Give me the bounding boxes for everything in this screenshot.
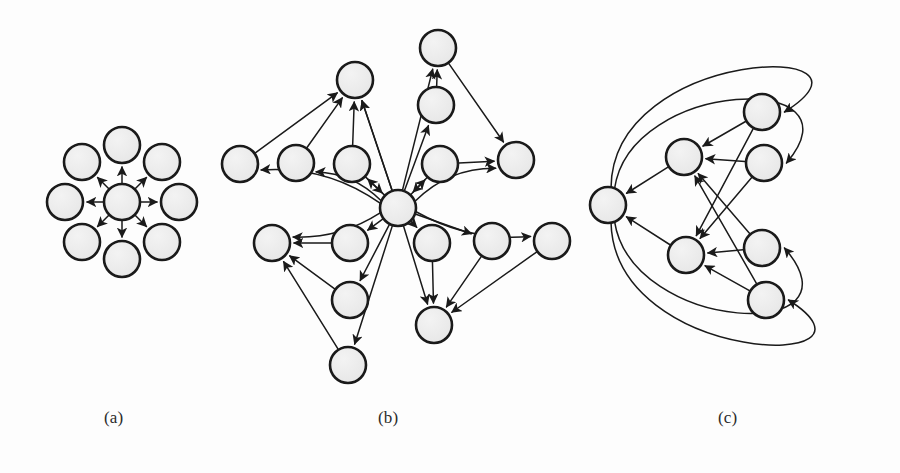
graph-figure [0,0,900,473]
graph-node [498,142,534,178]
graph-node [534,223,570,259]
nodes-layer [47,30,784,383]
graph-edge [284,262,338,349]
graph-node [161,184,197,220]
graph-edge [290,256,335,289]
graph-node [422,146,458,182]
graph-edge [135,178,146,189]
graph-node [416,307,452,343]
graph-node [330,347,366,383]
graph-node [414,225,450,261]
graph-edge [98,178,109,189]
graph-node [746,145,782,181]
panel-caption-c: (c) [718,408,737,428]
graph-edge [368,219,383,230]
graph-node [337,62,373,98]
graph-edge [459,161,494,163]
graph-edge [98,215,109,226]
graph-edge [703,121,745,146]
graph-edge [705,266,749,291]
graph-node [144,224,180,260]
graph-node [278,145,314,181]
graph-node [744,230,780,266]
graph-edge [449,64,504,142]
graph-node [47,184,83,220]
graph-edge [627,217,670,245]
graph-node [380,190,416,226]
graph-edge [353,102,355,145]
graph-edge [447,257,482,307]
graph-node [332,282,368,318]
graph-edge [307,98,342,148]
graph-edge [452,252,537,312]
graph-node [668,237,704,273]
panel-caption-b: (b) [378,408,398,428]
graph-node [64,224,100,260]
graph-node [334,146,370,182]
graph-node [418,87,454,123]
graph-node [474,223,510,259]
figure-page: (a) (b) (c) [0,0,900,473]
graph-node [254,225,290,261]
graph-edge [627,167,668,193]
graph-node [744,94,780,130]
graph-node [420,30,456,66]
graph-node [666,139,702,175]
graph-edge [611,222,815,345]
graph-edge [432,262,433,303]
graph-edge [706,159,745,162]
graph-node [64,144,100,180]
graph-node [104,127,140,163]
graph-node [332,225,368,261]
graph-edge [411,222,416,228]
graph-edge [413,178,427,192]
panel-caption-a: (a) [104,408,123,428]
graph-node [222,146,258,182]
graph-node [104,241,140,277]
graph-edge [135,215,146,226]
graph-node [144,144,180,180]
graph-edge [437,70,438,86]
graph-node [590,187,626,223]
graph-node [104,184,140,220]
graph-node [748,282,784,318]
